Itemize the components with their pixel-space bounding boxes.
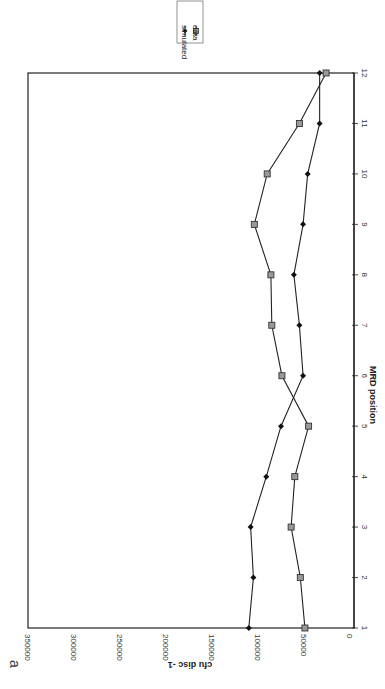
y-tick-label: 0 [345,634,354,639]
y-axis-title: cfu disc -1 [168,660,213,670]
square-marker-icon [279,373,285,379]
x-tick-label: 10 [360,169,369,178]
square-marker-icon [296,120,302,126]
y-tick-label: 50000 [299,634,308,657]
legend-label-data: data [191,25,200,41]
square-marker-icon [288,524,294,530]
x-tick-label: 1 [360,626,369,631]
x-tick-label: 9 [360,222,369,227]
x-tick-label: 3 [360,525,369,530]
square-marker-icon [292,474,298,480]
x-tick-label: 5 [360,424,369,429]
x-tick-label: 12 [360,69,369,78]
square-marker-icon [297,575,303,581]
rotated-line-chart: 123456789101112 050000100000150000200000… [0,0,385,689]
y-tick-label: 300000 [69,634,78,661]
x-axis-ticks: 123456789101112 [352,69,369,631]
square-marker-icon [323,70,329,76]
legend-item-data: data [191,25,200,41]
legend-item-simulated: simulated [180,25,189,59]
square-marker-icon [302,625,308,631]
x-tick-label: 11 [360,119,369,128]
legend-label-simulated: simulated [180,25,189,59]
square-marker-icon [264,171,270,177]
y-tick-label: 250000 [115,634,124,661]
y-tick-label: 150000 [207,634,216,661]
x-tick-label: 7 [360,323,369,328]
y-axis-ticks: 0500001000001500002000002500003000003500… [23,634,354,661]
x-tick-label: 2 [360,575,369,580]
square-marker-icon [268,272,274,278]
y-tick-label: 100000 [253,634,262,661]
x-tick-label: 4 [360,474,369,479]
x-tick-label: 8 [360,273,369,278]
legend: simulated data [177,1,203,59]
x-tick-label: 6 [360,374,369,379]
square-marker-icon [306,423,312,429]
plot-area [28,73,354,628]
panel-label: a [7,660,23,668]
x-axis-title: MRD position [368,366,378,424]
square-marker-icon [269,322,275,328]
y-tick-label: 350000 [23,634,32,661]
y-tick-label: 200000 [161,634,170,661]
square-marker-icon [251,221,257,227]
